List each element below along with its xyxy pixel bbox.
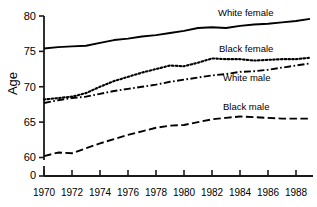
plot-canvas (0, 0, 317, 207)
axes-group (39, 16, 313, 176)
data-series-group (44, 19, 310, 156)
series-line-black-female (44, 58, 310, 100)
series-line-white-female (44, 19, 310, 49)
life-expectancy-line-chart: Age 80 75 70 65 60 0 1970 1972 1974 1976… (0, 0, 317, 207)
series-line-white-male (44, 63, 310, 103)
series-line-black-male (44, 116, 310, 156)
